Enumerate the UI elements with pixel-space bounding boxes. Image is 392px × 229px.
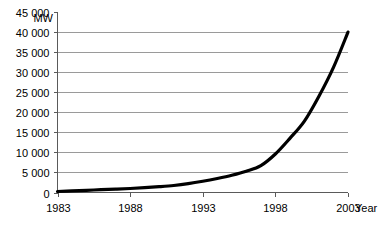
y-tick-label: 15 000 — [16, 127, 50, 139]
x-tick-label: 1988 — [118, 202, 142, 214]
x-tick-label: 1993 — [191, 202, 215, 214]
y-tick-label: 35 000 — [16, 47, 50, 59]
y-tick-label: 10 000 — [16, 147, 50, 159]
y-tick-label: 30 000 — [16, 67, 50, 79]
line-chart: 05 00010 00015 00020 00025 00030 00035 0… — [0, 0, 392, 229]
y-tick-label: 5 000 — [22, 167, 50, 179]
x-tick-label: 1998 — [263, 202, 287, 214]
x-axis-title: Year — [355, 202, 378, 214]
y-tick-label: 25 000 — [16, 87, 50, 99]
y-tick-label: 20 000 — [16, 107, 50, 119]
chart-container: 05 00010 00015 00020 00025 00030 00035 0… — [0, 0, 392, 229]
y-tick-label: 0 — [43, 188, 49, 200]
y-tick-label: 40 000 — [16, 27, 50, 39]
y-axis-unit-label: MW — [33, 12, 53, 24]
x-tick-label: 1983 — [46, 202, 70, 214]
